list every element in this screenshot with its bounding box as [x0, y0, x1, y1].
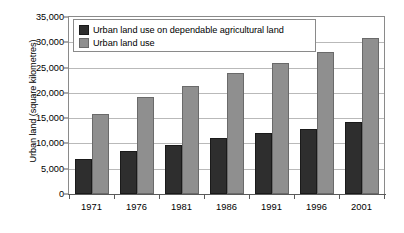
bar — [227, 73, 244, 194]
bar — [345, 122, 362, 194]
x-tick-label: 1991 — [247, 201, 297, 212]
x-tick-mark — [339, 195, 340, 199]
legend-item: Urban land use on dependable agricultura… — [79, 23, 310, 36]
x-tick-label: 1971 — [67, 201, 117, 212]
bar — [182, 86, 199, 194]
bar — [120, 151, 137, 194]
bar — [75, 159, 92, 194]
y-tick-mark — [64, 42, 68, 43]
x-tick-label: 1996 — [292, 201, 342, 212]
x-tick-label: 1981 — [157, 201, 207, 212]
bar — [317, 52, 334, 194]
legend-label: Urban land use — [93, 38, 155, 48]
x-tick-label: 1986 — [202, 201, 252, 212]
y-tick-mark — [64, 17, 68, 18]
x-tick-label: 2001 — [337, 201, 387, 212]
bar — [137, 97, 154, 194]
y-tick-mark — [64, 92, 68, 93]
y-tick-label: 20,000 — [20, 88, 64, 98]
x-tick-mark — [159, 195, 160, 199]
bar — [300, 129, 317, 194]
y-tick-label: 35,000 — [20, 12, 64, 22]
x-tick-mark — [69, 195, 70, 199]
bar-chart: Urban land (square kilometres) 05,00010,… — [0, 0, 404, 233]
legend-label: Urban land use on dependable agricultura… — [93, 25, 284, 35]
y-tick-mark — [64, 143, 68, 144]
x-tick-mark — [384, 195, 385, 199]
y-tick-label: 25,000 — [20, 63, 64, 73]
x-tick-mark — [204, 195, 205, 199]
bar — [165, 145, 182, 194]
x-tick-label: 1976 — [112, 201, 162, 212]
y-tick-label: 30,000 — [20, 37, 64, 47]
chart-legend: Urban land use on dependable agricultura… — [73, 19, 316, 52]
legend-swatch-dark-icon — [79, 25, 89, 35]
y-tick-label: 10,000 — [20, 138, 64, 148]
x-tick-mark — [294, 195, 295, 199]
y-tick-mark — [64, 118, 68, 119]
legend-swatch-gray-icon — [79, 38, 89, 48]
y-tick-label: 15,000 — [20, 113, 64, 123]
legend-item: Urban land use — [79, 36, 310, 49]
bar — [272, 63, 289, 194]
bar — [255, 133, 272, 194]
bar — [210, 138, 227, 194]
x-tick-mark — [249, 195, 250, 199]
y-tick-label: 5,000 — [20, 164, 64, 174]
bar — [362, 38, 379, 194]
bar-group — [339, 17, 384, 194]
y-tick-label: 0 — [20, 189, 64, 199]
y-tick-mark — [64, 67, 68, 68]
x-tick-mark — [114, 195, 115, 199]
bar — [92, 114, 109, 194]
y-tick-mark — [64, 168, 68, 169]
